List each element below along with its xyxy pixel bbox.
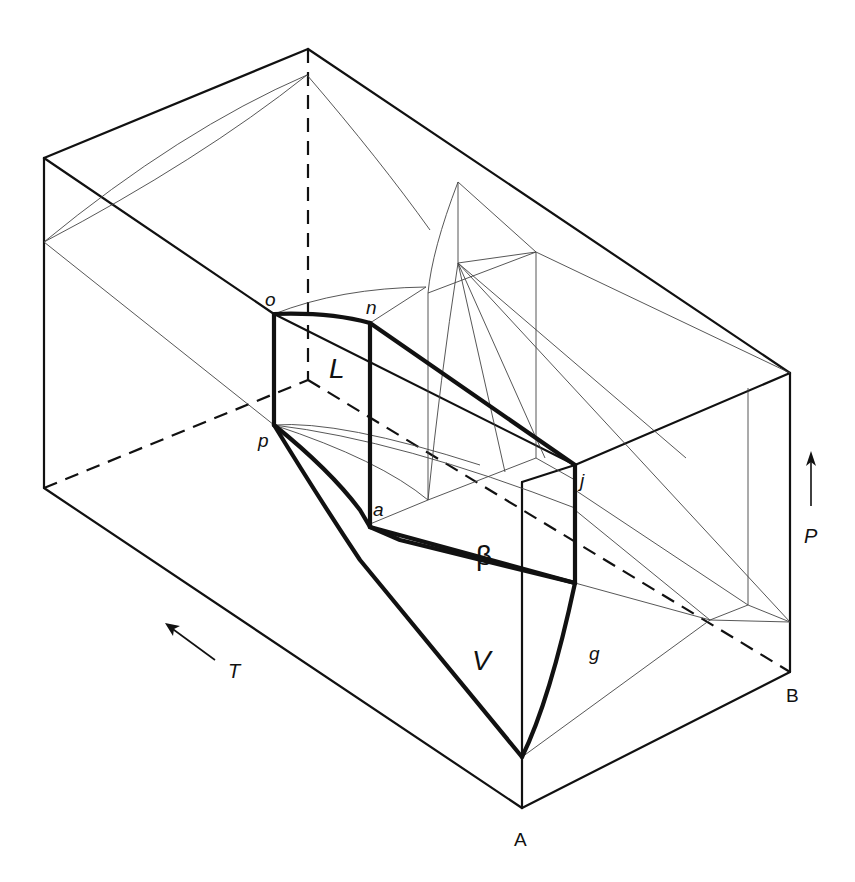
component-label-A: A — [514, 829, 527, 850]
component-label-B: B — [786, 685, 799, 706]
point-label-a: a — [373, 499, 384, 520]
point-label-n: n — [366, 297, 377, 318]
temperature-arrow-icon — [165, 623, 215, 660]
axis-label-temperature: T — [228, 660, 242, 682]
axis-label-pressure: P — [804, 525, 818, 547]
point-label-g: g — [589, 643, 600, 664]
point-label-p: p — [257, 430, 269, 451]
phase-diagram: o n p a j g L β V A B P T — [0, 0, 855, 882]
region-label-liquid: L — [329, 353, 345, 384]
point-label-j: j — [577, 470, 585, 491]
pressure-arrow-icon — [806, 451, 816, 506]
prism-edges — [44, 49, 790, 808]
point-label-o: o — [265, 289, 276, 310]
phase-boundary-lines — [44, 75, 790, 757]
region-label-vapor: V — [472, 645, 493, 676]
region-label-beta: β — [476, 540, 492, 571]
section-outline — [274, 314, 575, 757]
